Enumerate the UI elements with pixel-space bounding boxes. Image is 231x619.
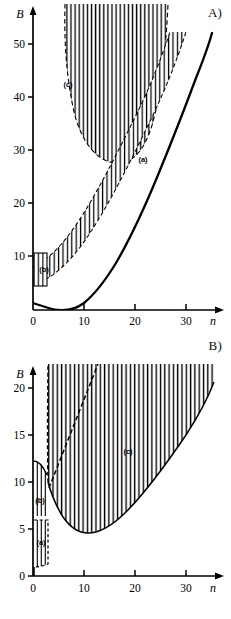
panel-a-y-tick-30: 30 <box>14 144 26 156</box>
panel-a-x-ticks <box>84 304 186 310</box>
panel-a-x-tick-0: 0 <box>30 315 36 327</box>
panel-b-x-tick-0: 0 <box>30 582 36 594</box>
panel-a-x-axis-label: n <box>210 314 216 328</box>
panel-b-region-label-a: (a) <box>36 538 46 547</box>
panel-a-x-tick-20: 20 <box>129 315 141 327</box>
panel-b-y-tick-0: 0 <box>19 570 25 582</box>
stability-diagram-figure: 10 20 30 40 50 0 10 20 30 B n (c) (a) (b… <box>0 0 231 619</box>
panel-b-x-axis-label: n <box>210 581 216 595</box>
panel-b-letter: B) <box>209 338 222 354</box>
panel-b-x-tick-20: 20 <box>129 582 141 594</box>
panel-a-region-label-b: (b) <box>39 265 49 274</box>
panel-a-x-tick-10: 10 <box>78 315 90 327</box>
panel-a-x-axis-arrow <box>215 307 224 314</box>
panel-a-region-label-a: (a) <box>138 155 148 164</box>
panel-b-y-tick-15: 15 <box>14 429 26 441</box>
panel-b-x-ticks <box>84 570 186 576</box>
panel-a-region-label-c: (c) <box>63 80 73 89</box>
panel-b-region-label-b: (b) <box>35 496 45 505</box>
panel-a-y-tick-50: 50 <box>14 38 26 50</box>
panel-b: 0 5 10 15 20 0 10 20 30 B n (c) (b) (a) … <box>0 330 231 619</box>
panel-a-plot: 10 20 30 40 50 0 10 20 30 B n (c) (a) (b… <box>0 0 231 330</box>
panel-a-y-tick-40: 40 <box>14 91 26 103</box>
panel-b-y-tick-20: 20 <box>14 382 26 394</box>
panel-b-x-axis-arrow <box>215 573 224 580</box>
panel-a-letter: A) <box>208 5 222 21</box>
panel-b-region-label-c: (c) <box>123 447 133 456</box>
region-c-left-boundary-b <box>47 364 48 482</box>
panel-a: 10 20 30 40 50 0 10 20 30 B n (c) (a) (b… <box>0 0 231 330</box>
region-b-fill-b <box>34 461 47 516</box>
panel-b-y-tick-10: 10 <box>14 476 26 488</box>
panel-b-y-axis-label: B <box>16 367 24 381</box>
panel-b-x-tick-30: 30 <box>180 582 192 594</box>
panel-a-y-axis-label: B <box>16 7 24 21</box>
panel-a-y-axis-arrow <box>30 6 37 15</box>
panel-a-y-tick-20: 20 <box>14 197 26 209</box>
panel-b-y-tick-5: 5 <box>19 523 25 535</box>
panel-a-y-tick-10: 10 <box>14 250 26 262</box>
panel-b-y-axis-arrow <box>30 366 37 375</box>
panel-b-x-tick-10: 10 <box>78 582 90 594</box>
panel-b-plot: 0 5 10 15 20 0 10 20 30 B n (c) (b) (a) <box>0 330 231 619</box>
panel-a-x-tick-30: 30 <box>180 315 192 327</box>
